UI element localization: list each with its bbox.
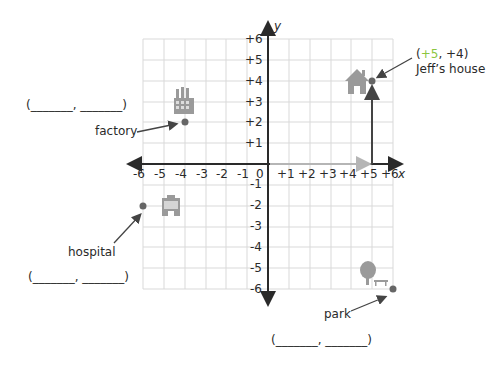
x-tick: +4 bbox=[339, 167, 357, 181]
park-answer-blank[interactable]: (_______, _______) bbox=[271, 333, 372, 347]
x-tick: -3 bbox=[196, 167, 208, 181]
y-tick: +5 bbox=[245, 53, 263, 67]
y-tick: -6 bbox=[250, 282, 262, 296]
y-tick: -5 bbox=[250, 261, 262, 275]
arrow-hospital bbox=[114, 215, 140, 243]
x-tick: +2 bbox=[298, 167, 316, 181]
factory-answer-blank[interactable]: (_______, _______) bbox=[26, 98, 127, 112]
jeffs-house-label: Jeff’s house bbox=[416, 62, 485, 76]
park-label: park bbox=[324, 307, 351, 321]
x-tick: -6 bbox=[133, 167, 145, 181]
factory-icon bbox=[174, 87, 194, 114]
park-icon bbox=[360, 261, 388, 286]
point-hospital bbox=[140, 203, 147, 210]
y-tick: -4 bbox=[250, 240, 262, 254]
x-tick: -4 bbox=[175, 167, 187, 181]
factory-label: factory bbox=[95, 124, 137, 138]
point-factory bbox=[182, 119, 189, 126]
x-tick: -1 bbox=[237, 167, 249, 181]
arrow-jeffs-house bbox=[378, 58, 412, 77]
x-tick: +1 bbox=[277, 167, 295, 181]
y-axis-label: y bbox=[274, 19, 281, 33]
y-tick: -1 bbox=[250, 177, 262, 191]
jeffs-house-coordinates: (+5, +4) bbox=[416, 47, 468, 61]
y-tick: +4 bbox=[245, 74, 263, 88]
y-tick: -2 bbox=[250, 198, 262, 212]
hospital-label: hospital bbox=[68, 245, 116, 259]
point-park bbox=[390, 286, 397, 293]
y-tick: +2 bbox=[245, 115, 263, 129]
x-tick: +5 bbox=[360, 167, 378, 181]
x-tick: -2 bbox=[216, 167, 228, 181]
arrow-park bbox=[351, 297, 385, 311]
x-tick: +3 bbox=[319, 167, 337, 181]
hospital-answer-blank[interactable]: (_______, _______) bbox=[28, 270, 129, 284]
house-icon bbox=[345, 69, 369, 94]
y-tick: +1 bbox=[245, 136, 263, 150]
y-tick: +3 bbox=[245, 95, 263, 109]
y-tick: -3 bbox=[250, 219, 262, 233]
y-tick: +6 bbox=[245, 32, 263, 46]
x-tick: +6 bbox=[381, 167, 399, 181]
x-tick: -5 bbox=[154, 167, 166, 181]
x-axis-label: x bbox=[398, 167, 405, 181]
point-jeffs-house bbox=[369, 78, 376, 85]
hospital-icon bbox=[162, 195, 180, 216]
